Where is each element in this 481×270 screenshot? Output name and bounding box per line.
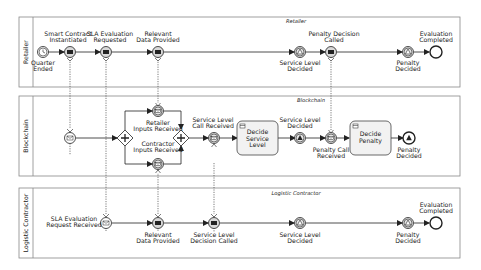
decide-penalty-task[interactable]: Decide Penalty (350, 121, 391, 155)
envelope-filled-icon (328, 50, 334, 54)
label-contractor-inputs-2: Inputs Received (133, 146, 182, 154)
envelope-filled-icon (155, 221, 161, 225)
envelope-filled-icon (103, 50, 109, 54)
label-eval-completed-l-2: Completed (419, 207, 453, 215)
label-penalty-call-2: Received (317, 152, 345, 159)
label-penalty-decided-r-2: Decided (395, 65, 420, 72)
label-data-provided-2: Data Provided (136, 36, 180, 43)
decide-service-level-task[interactable]: Decide Service Level (237, 121, 278, 155)
task-label-2: Penalty (359, 137, 382, 145)
label-eval-completed-r-2: Completed (419, 36, 453, 44)
label-sla-requested-2: Requested (94, 36, 127, 44)
penalty-decided-event-retailer[interactable] (403, 47, 414, 58)
label-penalty-decided-b-2: Decided (396, 152, 421, 159)
label-sl-decision-called-2: Decision Called (190, 237, 238, 244)
label-sl-decided-r-2: Decided (287, 65, 312, 72)
evaluation-completed-end-logistic[interactable] (430, 217, 442, 229)
lane-label-retailer: Retailer (22, 40, 29, 64)
pool-title-blockchain: Blockchain (297, 97, 325, 103)
envelope-filled-icon (211, 221, 217, 225)
envelope-filled-icon (67, 50, 73, 54)
label-penalty-decided-l-2: Decided (395, 237, 420, 244)
penalty-decided-end-blockchain[interactable] (403, 132, 415, 144)
label-sl-decided-l-2: Decided (287, 237, 312, 244)
label-quarter-ended-2: Ended (33, 65, 53, 72)
service-level-decided-event-blockchain[interactable] (295, 133, 306, 144)
lane-label-blockchain: Blockchain (22, 119, 29, 153)
lane-label-logistic: Logistic Contractor (22, 193, 30, 252)
pool-title-logistic: Logistic Contractor (271, 190, 321, 197)
label-sla-request-received-2: Request Received (46, 221, 101, 229)
penalty-decided-event-logistic[interactable] (403, 218, 414, 229)
service-level-decided-event-logistic[interactable] (295, 218, 306, 229)
label-sl-decided-b-2: Decided (287, 122, 312, 129)
pool-title-retailer: Retailer (286, 18, 307, 24)
label-penalty-called-2: Called (324, 36, 343, 43)
service-level-decided-event-retailer[interactable] (295, 47, 306, 58)
quarter-ended-event[interactable] (38, 47, 49, 58)
label-retailer-inputs-2: Inputs Received (133, 125, 182, 133)
label-smart-contract-2: Instantiated (49, 36, 86, 43)
label-data-provided-l-2: Data Provided (136, 237, 180, 244)
bpmn-diagram: Retailer Retailer Blockchain Blockchain … (0, 0, 481, 270)
task-label-3: Level (249, 141, 266, 148)
evaluation-completed-end-retailer[interactable] (430, 46, 442, 58)
business-rule-icon (240, 124, 245, 128)
label-sl-call-received-2: Call Received (192, 122, 234, 129)
envelope-filled-icon (155, 50, 161, 54)
business-rule-icon (353, 124, 358, 128)
